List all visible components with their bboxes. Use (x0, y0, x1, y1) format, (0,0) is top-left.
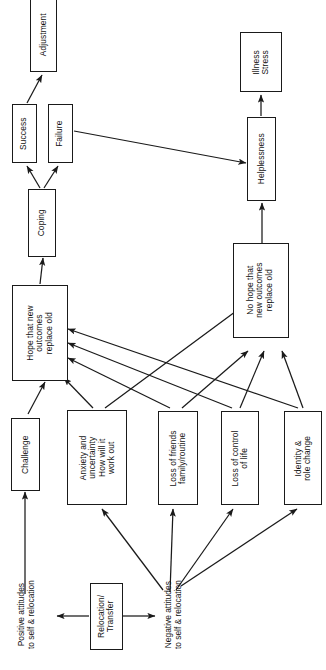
node-loss-of-friends[interactable]: Loss of friends family/routine (158, 411, 198, 505)
edge-challenge-hope (28, 382, 45, 414)
node-challenge-label: Challenge (21, 435, 30, 474)
node-loss-of-friends-label: Loss of friends family/routine (169, 430, 188, 486)
node-helplessness-label: Helplessness (257, 133, 266, 184)
node-adjustment[interactable]: Adjustment (30, 0, 57, 72)
node-success[interactable]: Success (12, 104, 37, 163)
edge-losscontrol-nohope (240, 351, 264, 408)
node-illness-stress-label: Illness Stress (252, 50, 271, 74)
edge-hope-coping (40, 258, 43, 284)
node-hope-label: Hope that new outcomes replace old (26, 305, 54, 360)
node-anxiety[interactable]: Anxiety and uncertainty How will it work… (67, 410, 127, 505)
edge-success-adjustment (27, 75, 42, 103)
node-coping[interactable]: Coping (28, 189, 56, 257)
diagram-canvas: Adjustment Success Failure Coping Hope t… (0, 0, 326, 670)
edge-anxiety-hope (64, 378, 93, 408)
node-failure[interactable]: Failure (48, 104, 73, 163)
node-loss-of-control-label: Loss of control of life (231, 430, 250, 486)
edge-failure-helplessness (74, 131, 246, 163)
edge-anxiety-nohope (105, 306, 243, 408)
label-positive-attitudes-text: Positive attitudes to self & relocation (16, 581, 35, 650)
node-helplessness[interactable]: Helplessness (247, 117, 276, 201)
node-no-hope-label: No hope that new outcomes replace old (247, 263, 275, 318)
edge-coping-failure (44, 166, 58, 188)
label-negative-attitudes: Negative attitudes to self & relocation (155, 560, 191, 670)
node-adjustment-label: Adjustment (39, 14, 48, 57)
edge-negative-anxiety (102, 509, 163, 590)
label-positive-attitudes: Positive attitudes to self & relocation (8, 560, 44, 670)
edge-lossfriends-nohope (182, 351, 248, 408)
node-failure-label: Failure (56, 120, 65, 146)
node-no-hope[interactable]: No hope that new outcomes replace old (233, 243, 289, 338)
node-coping-label: Coping (37, 209, 46, 236)
node-challenge[interactable]: Challenge (11, 418, 40, 491)
node-relocation-transfer[interactable]: Relocation/ Transfer (90, 583, 123, 650)
edge-lossfriends-hope (68, 358, 170, 408)
edge-identity-hope (68, 329, 298, 408)
node-anxiety-label: Anxiety and uncertainty How will it work… (78, 435, 116, 480)
node-identity-role-change[interactable]: Identity & role change (284, 411, 322, 505)
edge-negative-identity (181, 509, 297, 586)
edge-coping-success (27, 166, 40, 188)
node-identity-role-change-label: Identity & role change (294, 436, 313, 481)
node-loss-of-control[interactable]: Loss of control of life (221, 411, 259, 505)
edge-identity-nohope (282, 351, 303, 408)
node-illness-stress[interactable]: Illness Stress (240, 32, 282, 92)
node-relocation-transfer-label: Relocation/ Transfer (97, 595, 116, 638)
node-success-label: Success (20, 117, 29, 149)
node-hope[interactable]: Hope that new outcomes replace old (12, 285, 68, 381)
label-negative-attitudes-text: Negative attitudes to self & relocation (163, 581, 182, 650)
